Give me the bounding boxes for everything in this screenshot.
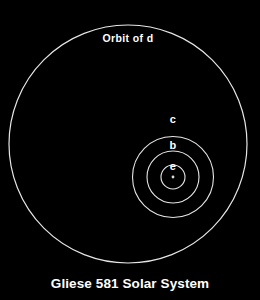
orbit-c-label: c [170, 113, 176, 125]
orbit-d-label: Orbit of d [102, 32, 153, 44]
solar-system-diagram: Orbit of d c b e Gliese 581 Solar System [0, 0, 260, 300]
orbit-b-label: b [170, 139, 177, 151]
orbit-canvas: Orbit of d c b e Gliese 581 Solar System [0, 0, 260, 300]
orbit-e-label: e [170, 160, 176, 172]
orbit-ring-d [9, 25, 247, 263]
figure-title: Gliese 581 Solar System [51, 276, 209, 291]
central-star-marker [172, 176, 175, 179]
